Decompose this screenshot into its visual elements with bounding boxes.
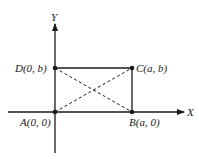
point-d xyxy=(53,66,58,71)
point-c xyxy=(130,66,135,71)
diagram-graphics xyxy=(0,0,199,159)
point-a xyxy=(53,110,58,115)
rectangle-diagram: Y X D(0, b) C(a, b) A(0, 0) B(a, 0) xyxy=(0,0,199,159)
point-c-label: C(a, b) xyxy=(136,62,167,74)
point-b xyxy=(130,110,135,115)
point-b-label: B(a, 0) xyxy=(129,116,160,128)
x-axis-label: X xyxy=(187,106,194,118)
y-axis-label: Y xyxy=(51,11,57,23)
point-d-label: D(0, b) xyxy=(15,62,47,74)
point-a-label: A(0, 0) xyxy=(20,116,51,128)
